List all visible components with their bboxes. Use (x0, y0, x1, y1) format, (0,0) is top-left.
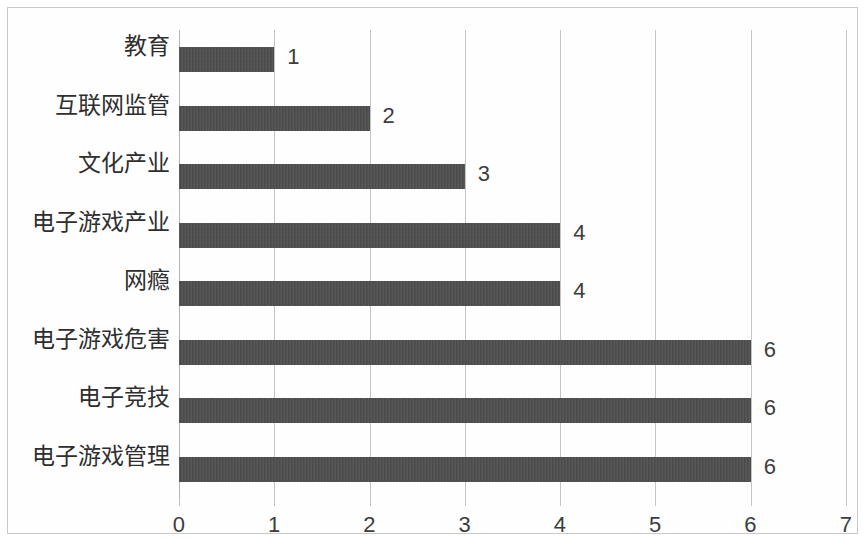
category-axis-label: 教育 (2, 30, 170, 62)
bar-value-label: 4 (573, 220, 585, 246)
category-axis-label: 电子游戏管理 (2, 440, 170, 472)
bar-value-label: 6 (764, 454, 776, 480)
plot-area: 0123456712344666 (179, 30, 846, 498)
category-axis-label: 电子游戏危害 (2, 323, 170, 355)
x-tick-mark-7 (846, 498, 847, 506)
category-axis-label: 电子游戏产业 (2, 206, 170, 238)
bar-row: 6 (179, 323, 846, 381)
x-axis-tick-label: 2 (350, 512, 390, 538)
x-axis-tick-label: 4 (540, 512, 580, 538)
x-axis-tick-label: 0 (159, 512, 199, 538)
x-tick-mark-3 (465, 498, 466, 506)
category-axis-label: 互联网监管 (2, 89, 170, 121)
bar[interactable] (179, 223, 560, 248)
x-tick-mark-0 (179, 498, 180, 506)
bar[interactable] (179, 281, 560, 306)
x-axis-tick-label: 3 (445, 512, 485, 538)
bar-value-label: 6 (764, 337, 776, 363)
bar-row: 4 (179, 206, 846, 264)
bar-row: 4 (179, 264, 846, 322)
x-axis-tick-label: 5 (635, 512, 675, 538)
bar-row: 6 (179, 381, 846, 439)
x-axis-tick-label: 7 (826, 512, 865, 538)
bar[interactable] (179, 106, 370, 131)
category-axis-label: 文化产业 (2, 147, 170, 179)
bar-value-label: 2 (383, 103, 395, 129)
x-tick-mark-4 (560, 498, 561, 506)
x-axis-tick-label: 1 (254, 512, 294, 538)
bar-value-label: 3 (478, 161, 490, 187)
category-axis-label: 网瘾 (2, 264, 170, 296)
bar-row: 2 (179, 89, 846, 147)
x-tick-mark-5 (655, 498, 656, 506)
bar[interactable] (179, 340, 751, 365)
bar[interactable] (179, 457, 751, 482)
category-axis-label: 电子竞技 (2, 381, 170, 413)
bar-value-label: 6 (764, 395, 776, 421)
bar-row: 6 (179, 440, 846, 498)
gridline-x-7 (846, 30, 847, 498)
bar-row: 3 (179, 147, 846, 205)
bar-value-label: 1 (287, 44, 299, 70)
x-tick-mark-1 (274, 498, 275, 506)
x-tick-mark-2 (370, 498, 371, 506)
bar-row: 1 (179, 30, 846, 88)
x-tick-mark-6 (751, 498, 752, 506)
bar[interactable] (179, 398, 751, 423)
bar[interactable] (179, 47, 274, 72)
bar-value-label: 4 (573, 278, 585, 304)
chart-frame: 0123456712344666 教育互联网监管文化产业电子游戏产业网瘾电子游戏… (7, 7, 858, 534)
x-axis-tick-label: 6 (731, 512, 771, 538)
bar[interactable] (179, 164, 465, 189)
